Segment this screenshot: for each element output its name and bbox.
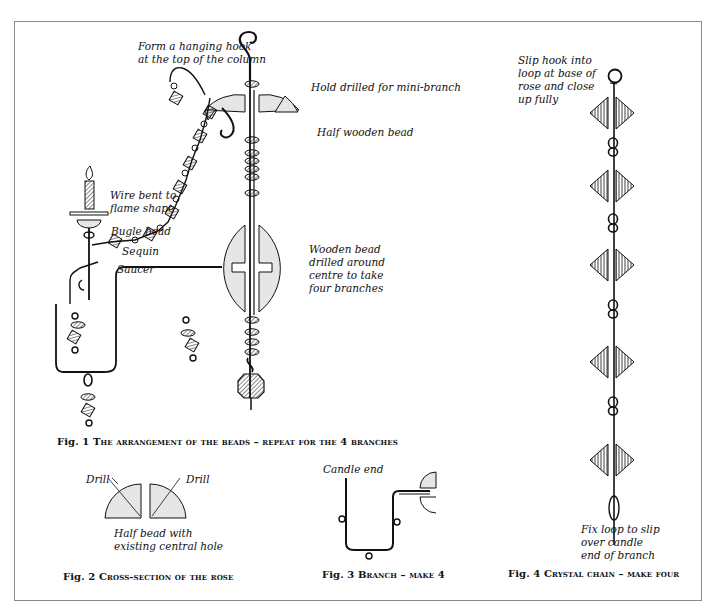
label-wooden-bead: Wooden bead drilled around centre to tak… <box>309 243 385 295</box>
fig3-caption-text: Branch – make 4 <box>358 569 445 580</box>
fig1-central-column <box>205 32 299 410</box>
label-drill-left: Drill <box>86 473 110 486</box>
label-hanging-hook: Form a hanging hook at the top of the co… <box>138 40 266 66</box>
fig4-caption-number: Fig. 4 <box>508 568 540 579</box>
label-slip-hook: Slip hook into loop at base of rose and … <box>518 54 596 106</box>
fig2-caption-number: Fig. 2 <box>63 571 95 582</box>
label-candle-end: Candle end <box>323 463 383 476</box>
label-half-bead-central-hole: Half bead with existing central hole <box>114 527 223 553</box>
fig1-caption: Fig. 1 The arrangement of the beads – re… <box>57 436 398 447</box>
fig4-crystal-chain <box>590 70 634 546</box>
fig3-branch <box>339 472 436 559</box>
fig4-caption: Fig. 4 Crystal chain – make four <box>508 568 679 579</box>
fig1-caption-text: The arrangement of the beads – repeat fo… <box>93 436 398 447</box>
label-drill-right: Drill <box>186 473 210 486</box>
label-wire-bent: Wire bent to flame shape <box>110 189 176 215</box>
label-hole-drilled: Hold drilled for mini-branch <box>311 81 461 94</box>
label-fix-loop: Fix loop to slip over candle end of bran… <box>581 523 660 562</box>
fig3-caption-number: Fig. 3 <box>322 569 354 580</box>
label-half-wooden-bead: Half wooden bead <box>317 126 414 139</box>
label-bugle-bead: Bugle bead <box>111 225 171 238</box>
fig2-caption-text: Cross-section of the rose <box>99 571 233 582</box>
fig2-caption: Fig. 2 Cross-section of the rose <box>63 571 233 582</box>
fig4-caption-text: Crystal chain – make four <box>544 568 679 579</box>
label-saucer: Saucer <box>117 263 154 276</box>
fig2-cross-section <box>105 478 186 518</box>
fig3-caption: Fig. 3 Branch – make 4 <box>322 569 445 580</box>
label-sequin: Sequin <box>122 245 159 258</box>
fig1-caption-number: Fig. 1 <box>57 436 89 447</box>
